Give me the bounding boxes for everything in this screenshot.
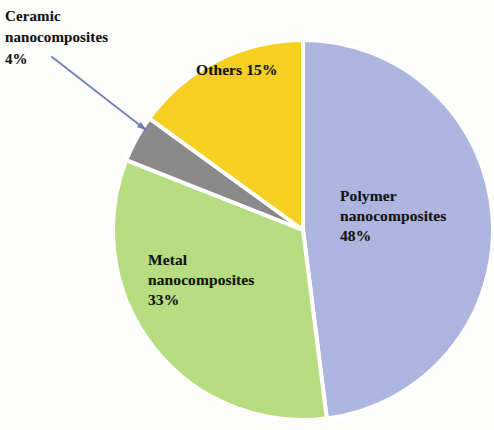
slice-label-ceramic-nanocomposites: Ceramic nanocomposites 4% <box>5 6 108 70</box>
pie-chart-figure: Polymer nanocomposites 48% Metal nanocom… <box>0 0 494 430</box>
slice-label-metal-nanocomposites: Metal nanocomposites 33% <box>148 250 254 310</box>
slice-label-others: Others 15% <box>196 60 278 80</box>
slice-label-polymer-nanocomposites: Polymer nanocomposites 48% <box>340 186 446 246</box>
